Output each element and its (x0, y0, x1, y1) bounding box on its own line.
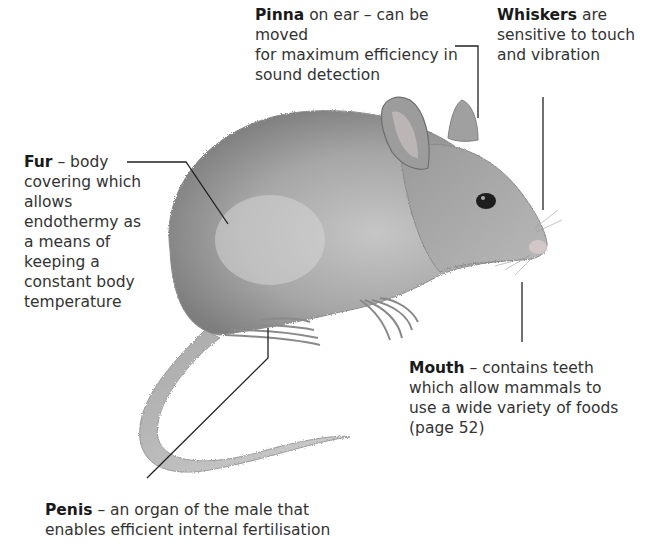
back-ear (448, 100, 478, 141)
whiskers-label: Whiskers are sensitive to touch and vibr… (497, 5, 666, 65)
nose (529, 240, 547, 254)
fur-highlight (215, 195, 325, 285)
fur-label: Fur – body covering which allows endothe… (24, 152, 174, 312)
mouth-label: Mouth – contains teeth which allow mamma… (409, 358, 666, 438)
pinna-label: Pinna on ear – can be moved for maximum … (255, 5, 485, 85)
eye (476, 193, 496, 209)
tail (140, 330, 350, 472)
penis-label: Penis – an organ of the male that enable… (45, 500, 405, 540)
